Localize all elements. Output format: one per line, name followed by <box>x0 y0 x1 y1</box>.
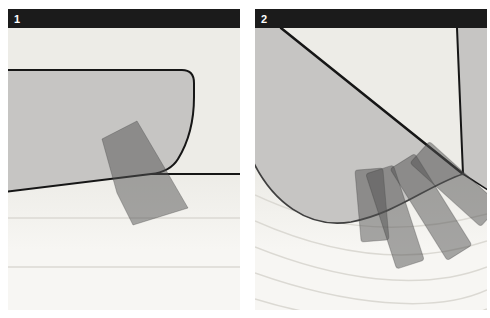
panel-step-1: 1 <box>8 9 240 310</box>
step-2-number: 2 <box>255 10 268 29</box>
panel-step-2: 2 <box>255 9 487 310</box>
step-1-illustration <box>8 9 240 310</box>
step-1-header-bar: 1 <box>8 9 240 28</box>
step-2-header-bar: 2 <box>255 9 487 28</box>
step-1-number: 1 <box>8 10 21 29</box>
right-hull-shape <box>457 28 487 191</box>
instruction-figure: 1 2 <box>0 0 490 318</box>
step-2-illustration <box>255 9 487 310</box>
